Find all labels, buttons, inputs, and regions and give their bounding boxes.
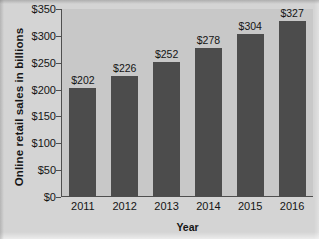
x-tick-label: 2013 xyxy=(144,200,190,212)
y-tick-label: $100 xyxy=(4,137,56,149)
y-tick-mark xyxy=(56,36,61,37)
bar xyxy=(237,34,264,197)
bar-value-label: $278 xyxy=(185,34,231,46)
x-axis-title: Year xyxy=(62,221,313,233)
y-tick-mark xyxy=(56,116,61,117)
bar-value-label: $327 xyxy=(269,7,315,19)
y-tick-mark xyxy=(56,90,61,91)
bar xyxy=(153,62,180,197)
x-tick-label: 2011 xyxy=(60,200,106,212)
bar-chart-figure: Online retail sales in billions $0$50$10… xyxy=(0,0,319,239)
y-tick-label: $350 xyxy=(4,3,56,15)
bar-value-label: $252 xyxy=(144,48,190,60)
y-tick-label: $250 xyxy=(4,57,56,69)
y-axis-line xyxy=(61,9,62,197)
x-tick-label: 2015 xyxy=(227,200,273,212)
bar xyxy=(69,88,96,197)
x-axis-line xyxy=(61,196,313,197)
bar xyxy=(279,21,306,197)
x-tick-label: 2014 xyxy=(185,200,231,212)
y-tick-label: $0 xyxy=(4,191,56,203)
bar xyxy=(111,76,138,197)
bar-value-label: $202 xyxy=(60,74,106,86)
y-tick-mark xyxy=(56,9,61,10)
y-tick-mark xyxy=(56,143,61,144)
y-tick-label: $50 xyxy=(4,164,56,176)
y-tick-label: $150 xyxy=(4,110,56,122)
bar-value-label: $304 xyxy=(227,20,273,32)
y-tick-mark xyxy=(56,63,61,64)
x-tick-label: 2016 xyxy=(269,200,315,212)
bar xyxy=(195,48,222,197)
y-tick-mark xyxy=(56,170,61,171)
y-tick-label: $200 xyxy=(4,84,56,96)
y-tick-mark xyxy=(56,197,61,198)
y-tick-label: $300 xyxy=(4,30,56,42)
x-tick-label: 2012 xyxy=(102,200,148,212)
bar-value-label: $226 xyxy=(102,62,148,74)
